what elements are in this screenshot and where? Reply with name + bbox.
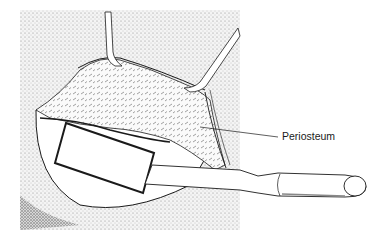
periosteum-label: Periosteum — [282, 130, 335, 142]
illustration — [0, 0, 386, 240]
